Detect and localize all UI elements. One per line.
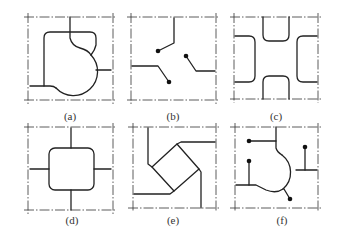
panel-e xyxy=(128,123,220,212)
panel-b xyxy=(127,13,220,104)
panel-d xyxy=(24,123,116,214)
panel-f xyxy=(230,123,322,212)
panel-label-a: (a) xyxy=(50,110,90,122)
panel-label-d: (d) xyxy=(52,214,92,226)
panel-label-f: (f) xyxy=(262,214,302,226)
panel-label-e: (e) xyxy=(153,214,193,226)
panel-c xyxy=(230,13,322,103)
panel-label-c: (c) xyxy=(256,110,296,122)
panel-a xyxy=(24,13,116,104)
panel-label-b: (b) xyxy=(153,110,193,122)
